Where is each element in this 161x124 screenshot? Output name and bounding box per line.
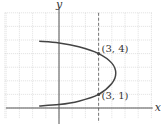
point-label: (3, 1) <box>102 90 129 101</box>
point-marker <box>97 93 100 96</box>
parabola-chart: x y (3, 4)(3, 1) <box>0 0 161 124</box>
grid <box>5 13 153 119</box>
x-axis-label: x <box>155 101 161 114</box>
y-axis-label: y <box>55 0 63 11</box>
point-marker <box>97 52 100 55</box>
point-label: (3, 4) <box>102 43 129 54</box>
